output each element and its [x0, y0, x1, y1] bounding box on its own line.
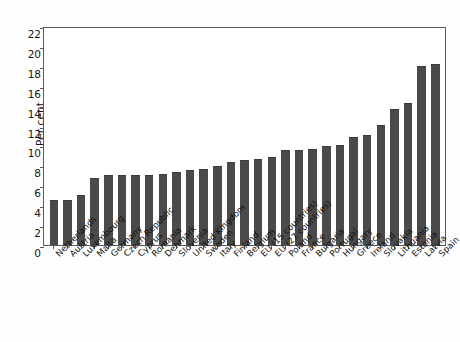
y-tick-label: 2 [34, 228, 41, 239]
bar-cell [88, 28, 102, 245]
y-tick-label: 0 [34, 248, 41, 259]
x-label-cell: Romania [142, 248, 156, 342]
x-label-cell: Lithuania [388, 248, 402, 342]
y-tick-mark [40, 88, 44, 89]
bar-cell [183, 28, 197, 245]
bar [240, 160, 248, 245]
x-label-cell: Portugal [320, 248, 334, 342]
x-label-cell: Sweden [197, 248, 211, 342]
bar-series [44, 28, 445, 245]
y-tick-mark [40, 147, 44, 148]
bar [322, 146, 330, 245]
y-tick-label: 8 [34, 168, 41, 179]
y-tick-mark [40, 48, 44, 49]
bar-cell [347, 28, 361, 245]
x-label-cell: Germany [101, 248, 115, 342]
bar-cell [401, 28, 415, 245]
x-label-cell: Belgium [238, 248, 252, 342]
x-label-cell: Malta [87, 248, 101, 342]
bar-cell [115, 28, 129, 245]
y-tick-label: 12 [28, 128, 41, 139]
bar-cell [211, 28, 225, 245]
x-label-cell: Denmark [156, 248, 170, 342]
bar-cell [102, 28, 116, 245]
x-label-cell: Hungary [333, 248, 347, 342]
bar-cell [388, 28, 402, 245]
y-tick-mark [40, 167, 44, 168]
y-tick-mark [40, 128, 44, 129]
x-label-cell: Czech Republic [114, 248, 128, 342]
bar-cell [333, 28, 347, 245]
bar-cell [251, 28, 265, 245]
y-tick-label: 18 [28, 69, 41, 80]
x-label-cell: Slovakia [375, 248, 389, 342]
x-label-cell: Slovenia [169, 248, 183, 342]
bar-cell [142, 28, 156, 245]
bar [417, 66, 425, 245]
y-tick-label: 20 [28, 49, 41, 60]
bar-cell [74, 28, 88, 245]
bar-cell [415, 28, 429, 245]
bar-chart-figure: Per cent 0246810121416182022 Netherlands… [0, 0, 460, 342]
bar [308, 149, 316, 245]
x-label-cell: Finland [224, 248, 238, 342]
x-label-cell: Estonia [402, 248, 416, 342]
bar-cell [61, 28, 75, 245]
y-tick-mark [40, 227, 44, 228]
bar [431, 64, 439, 245]
x-label-cell: Netherlands [46, 248, 60, 342]
x-label-cell: Italy [210, 248, 224, 342]
bar-cell [429, 28, 443, 245]
bar-cell [374, 28, 388, 245]
bar-cell [360, 28, 374, 245]
x-label-cell: Austria [60, 248, 74, 342]
x-label-cell: EU (27 countries) [265, 248, 279, 342]
bar-cell [129, 28, 143, 245]
y-tick-mark [40, 28, 44, 29]
x-label-cell: Poland [279, 248, 293, 342]
x-label-cell: United Kingdom [183, 248, 197, 342]
plot-area: 0246810121416182022 [43, 27, 446, 246]
y-tick-label: 22 [28, 29, 41, 40]
y-tick-label: 16 [28, 88, 41, 99]
y-tick-label: 4 [34, 208, 41, 219]
x-label-cell: Latvia [416, 248, 430, 342]
bar-cell [265, 28, 279, 245]
y-tick-mark [40, 68, 44, 69]
bar [377, 125, 385, 245]
y-tick-mark [40, 187, 44, 188]
x-axis-labels: NetherlandsAustriaLuxembourgMaltaGermany… [43, 248, 446, 342]
x-label-cell: Ireland [361, 248, 375, 342]
bar-cell [279, 28, 293, 245]
x-label-cell: Greece [347, 248, 361, 342]
x-label-cell: Spain [429, 248, 443, 342]
y-tick-mark [40, 108, 44, 109]
y-tick-label: 6 [34, 188, 41, 199]
bar [50, 200, 58, 245]
x-label-cell: France [292, 248, 306, 342]
bar [404, 103, 412, 245]
x-label-cell: Bulgaria [306, 248, 320, 342]
x-label-cell: Luxembourg [73, 248, 87, 342]
bar [390, 109, 398, 245]
y-tick-mark [40, 207, 44, 208]
y-tick-label: 10 [28, 148, 41, 159]
y-tick-label: 14 [28, 108, 41, 119]
x-label-cell: Cyprus [128, 248, 142, 342]
x-label-cell: EU (15 countries) [251, 248, 265, 342]
bar-cell [197, 28, 211, 245]
bar-cell [47, 28, 61, 245]
